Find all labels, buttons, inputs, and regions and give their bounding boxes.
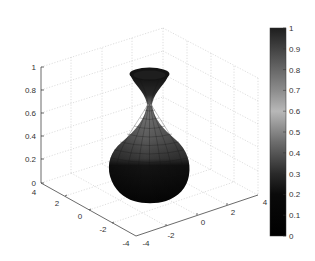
colorbar-tick: 0.7	[289, 86, 301, 95]
y-tick: 4	[32, 188, 37, 197]
y-tick: 0	[78, 212, 83, 221]
colorbar-tick: 1	[289, 24, 294, 33]
z-tick-labels: 0 0.2 0.4 0.6 0.8 1	[25, 63, 37, 188]
x-tick-labels: -4 -2 0 2 4	[142, 198, 267, 248]
colorbar-tick: 0.2	[289, 190, 301, 199]
colorbar-tick: 0.3	[289, 170, 301, 179]
x-tick: 0	[201, 218, 206, 227]
colorbar: 0 0.1 0.2 0.3 0.4 0.5 0.6 0.7 0.8 0.9 1	[270, 24, 301, 241]
z-tick: 0.4	[25, 132, 37, 141]
y-tick-labels: 4 2 0 -2 -4	[32, 188, 130, 248]
x-tick: 2	[231, 208, 236, 217]
colorbar-tick: 0.9	[289, 45, 301, 54]
y-tick: -2	[99, 225, 107, 234]
colorbar-tick: 0.5	[289, 128, 301, 137]
y-tick: -4	[122, 239, 130, 248]
x-tick: -4	[142, 239, 150, 248]
z-tick: 0.8	[25, 86, 37, 95]
z-tick: 0	[32, 179, 37, 188]
surface-plot-figure: 0 0.2 0.4 0.6 0.8 1 4 2 0 -2 -4 -4 -2 0 …	[0, 0, 315, 261]
colorbar-tick: 0.8	[289, 66, 301, 75]
z-tick: 0.2	[25, 155, 37, 164]
vase-surface	[109, 68, 190, 204]
y-tick: 2	[55, 199, 60, 208]
z-tick: 0.6	[25, 109, 37, 118]
colorbar-tick: 0.1	[289, 211, 301, 220]
z-tick: 1	[32, 63, 37, 72]
colorbar-tick: 0.4	[289, 149, 301, 158]
x-tick: -2	[167, 231, 175, 240]
x-tick: 4	[263, 198, 268, 207]
colorbar-tick: 0	[289, 232, 294, 241]
colorbar-tick: 0.6	[289, 107, 301, 116]
